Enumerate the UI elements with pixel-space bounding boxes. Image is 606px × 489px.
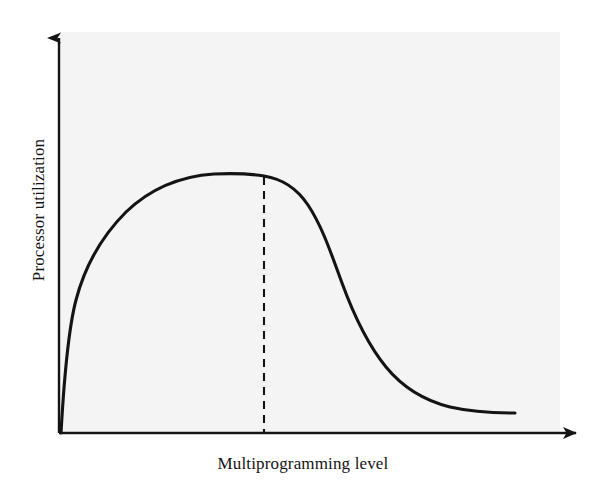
x-axis-label: Multiprogramming level — [0, 455, 606, 472]
chart-figure: Processor utilization Multiprogramming l… — [0, 0, 606, 489]
plot-area-background — [59, 32, 560, 433]
thrashing-curve-chart — [0, 0, 606, 489]
y-axis-label: Processor utilization — [30, 60, 47, 360]
